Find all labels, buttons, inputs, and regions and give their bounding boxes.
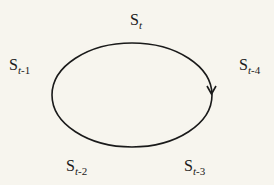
subscript-variable: t — [139, 19, 142, 31]
node-label-s-t-minus-4: St-4 — [239, 57, 260, 74]
node-subscript: t — [139, 19, 142, 31]
node-base: S — [184, 157, 193, 174]
node-label-s-t-minus-3: St-3 — [184, 158, 205, 175]
node-base: S — [130, 11, 139, 28]
node-base: S — [66, 157, 75, 174]
node-base: S — [239, 56, 248, 73]
subscript-offset: -3 — [196, 165, 205, 177]
cycle-ellipse — [52, 43, 212, 147]
subscript-offset: -1 — [21, 64, 30, 76]
node-base: S — [9, 56, 18, 73]
node-subscript: t-2 — [75, 165, 87, 177]
node-label-s-t-minus-1: St-1 — [9, 57, 30, 74]
subscript-offset: -4 — [251, 64, 260, 76]
node-label-s-t: St — [130, 12, 142, 29]
node-subscript: t-4 — [248, 64, 260, 76]
node-subscript: t-3 — [193, 165, 205, 177]
subscript-offset: -2 — [78, 165, 87, 177]
node-subscript: t-1 — [18, 64, 30, 76]
node-label-s-t-minus-2: St-2 — [66, 158, 87, 175]
cycle-diagram: St St-1 St-4 St-2 St-3 — [0, 0, 274, 185]
